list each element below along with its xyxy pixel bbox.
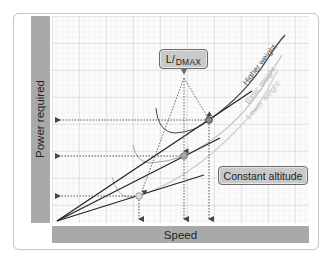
basic-weight-ldmax-point — [181, 153, 188, 160]
ld-max-sub: DMAX — [176, 57, 201, 67]
x-axis-bar: Speed — [52, 226, 309, 243]
constant-altitude-callout: Constant altitude — [218, 166, 308, 185]
plot-area — [0, 0, 331, 261]
ld-max-callout: L/DMAX — [159, 49, 208, 69]
lower-weight-ldmax-point — [136, 193, 143, 200]
higher-weight-ldmax-point — [206, 117, 213, 124]
x-axis-label: Speed — [52, 226, 309, 243]
ld-max-slash: / — [172, 54, 175, 65]
